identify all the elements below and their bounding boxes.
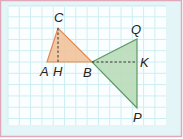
label-a: A [39, 64, 49, 79]
label-k: K [140, 55, 150, 70]
label-q: Q [131, 22, 141, 37]
diagram-frame: C A H B Q K P [0, 0, 183, 139]
label-h: H [53, 64, 63, 79]
label-c: C [54, 10, 64, 25]
label-b: B [83, 65, 92, 80]
label-p: P [133, 110, 142, 125]
geometry-diagram: C A H B Q K P [0, 0, 183, 139]
